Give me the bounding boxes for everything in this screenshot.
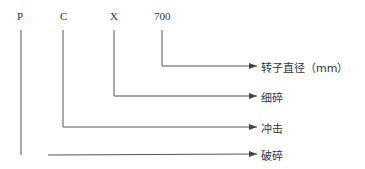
connector-lines	[0, 0, 365, 169]
connector-700	[162, 30, 257, 66]
label-rotor-diameter: 转子直径（mm）	[261, 59, 348, 75]
connector-x	[114, 30, 257, 96]
label-impact: 冲击	[261, 120, 283, 136]
connector-p	[48, 154, 257, 155]
label-fine-crushing: 细碎	[261, 89, 283, 105]
connector-c	[63, 30, 257, 127]
label-crushing: 破碎	[261, 147, 283, 163]
